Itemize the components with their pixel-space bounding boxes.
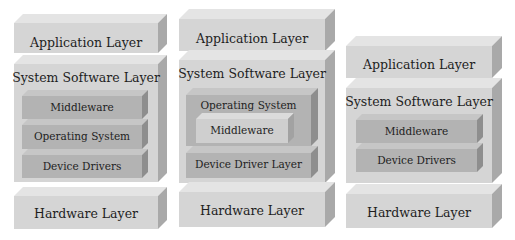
application-layer-label: Application Layer [363, 57, 475, 72]
application-layer-block: Application Layer [179, 9, 335, 51]
hardware-layer-block: Hardware Layer [14, 187, 167, 229]
hardware-layer-label: Hardware Layer [367, 205, 471, 220]
system-software-layer-label: System Software Layer [345, 94, 493, 109]
hardware-layer-block: Hardware Layer [179, 182, 335, 227]
system-software-layer-label: System Software Layer [178, 66, 326, 81]
application-layer-block: Application Layer [346, 36, 502, 78]
hardware-layer-block: Hardware Layer [346, 184, 502, 228]
middleware-label: Middleware [385, 125, 449, 137]
system-software-layer-label: System Software Layer [12, 70, 160, 85]
middleware-label: Middleware [50, 101, 114, 113]
application-layer-label: Application Layer [30, 35, 142, 50]
device-driver-layer-block: Device Driver Layer [186, 146, 318, 178]
device-drivers-block: Device Drivers [22, 149, 148, 178]
device-drivers-label: Device Drivers [43, 160, 122, 172]
device-drivers-label: Device Drivers [377, 154, 456, 166]
middleware-block: Middleware [22, 90, 148, 119]
operating-system-label: Operating System [200, 99, 296, 111]
hardware-layer-label: Hardware Layer [34, 206, 138, 221]
application-layer-block: Application Layer [14, 14, 167, 53]
middleware-block: Middleware [196, 113, 294, 143]
device-driver-layer-label: Device Driver Layer [195, 158, 302, 170]
middleware-block: Middleware [356, 114, 483, 143]
operating-system-label: Operating System [34, 130, 130, 142]
application-layer-label: Application Layer [196, 31, 308, 46]
device-drivers-block: Device Drivers [356, 143, 483, 172]
hardware-layer-label: Hardware Layer [200, 203, 304, 218]
operating-system-block: Operating System [22, 119, 148, 149]
layer-architecture-diagram: Application LayerSystem Software LayerMi… [0, 0, 515, 240]
middleware-label: Middleware [210, 124, 274, 136]
